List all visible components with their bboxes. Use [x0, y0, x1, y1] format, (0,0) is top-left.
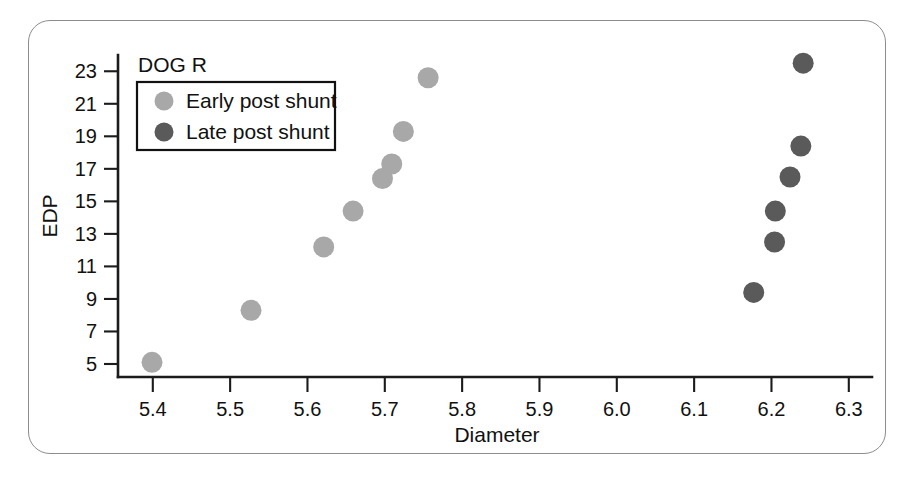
x-tick-label: 5.4: [139, 398, 167, 420]
legend-label-0: Early post shunt: [186, 89, 337, 112]
legend-marker-1: [155, 123, 174, 142]
x-axis-ticks: 5.45.55.65.75.85.96.06.16.26.3: [139, 377, 863, 420]
data-point: [313, 236, 334, 257]
y-tick-label: 23: [75, 60, 97, 82]
y-axis-ticks: 57911131517192123: [75, 60, 118, 375]
legend-label-1: Late post shunt: [186, 120, 330, 143]
y-tick-label: 5: [86, 353, 97, 375]
y-axis-title: EDP: [38, 194, 61, 237]
series-late-post-shunt: [743, 53, 813, 303]
data-point: [393, 121, 414, 142]
panel-label: DOG R: [138, 53, 207, 76]
x-axis-title: Diameter: [454, 423, 539, 446]
data-point: [765, 201, 786, 222]
chart-legend: Early post shuntLate post shunt: [137, 82, 337, 150]
x-tick-label: 6.0: [603, 398, 631, 420]
data-point: [764, 232, 785, 253]
y-tick-label: 19: [75, 125, 97, 147]
y-tick-label: 21: [75, 93, 97, 115]
data-point: [743, 282, 764, 303]
y-tick-label: 7: [86, 320, 97, 342]
legend-marker-0: [155, 92, 174, 111]
x-tick-label: 5.9: [526, 398, 554, 420]
y-tick-label: 9: [86, 288, 97, 310]
data-point: [241, 300, 262, 321]
data-point: [780, 166, 801, 187]
data-point: [142, 352, 163, 373]
scatter-chart: 57911131517192123 5.45.55.65.75.85.96.06…: [0, 0, 916, 482]
x-tick-label: 6.2: [758, 398, 786, 420]
figure-container: 57911131517192123 5.45.55.65.75.85.96.06…: [0, 0, 916, 482]
data-point: [793, 53, 814, 74]
x-tick-label: 6.1: [680, 398, 708, 420]
x-tick-label: 5.5: [216, 398, 244, 420]
x-tick-label: 5.7: [371, 398, 399, 420]
plot-area: 57911131517192123 5.45.55.65.75.85.96.06…: [0, 0, 916, 482]
x-tick-label: 6.3: [835, 398, 863, 420]
data-point: [381, 153, 402, 174]
x-tick-label: 5.6: [294, 398, 322, 420]
data-point: [790, 136, 811, 157]
data-point: [343, 201, 364, 222]
y-tick-label: 17: [75, 158, 97, 180]
y-tick-label: 15: [75, 190, 97, 212]
y-tick-label: 11: [76, 255, 97, 277]
y-tick-label: 13: [75, 223, 97, 245]
x-tick-label: 5.8: [448, 398, 476, 420]
data-point: [418, 67, 439, 88]
